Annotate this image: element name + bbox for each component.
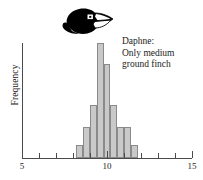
x-axis-major-tick <box>107 151 108 158</box>
x-axis-minor-tick <box>73 153 74 158</box>
x-axis-minor-tick <box>158 153 159 158</box>
histogram-bar <box>83 127 90 158</box>
x-axis-minor-tick <box>175 153 176 158</box>
x-axis-minor-tick <box>141 153 142 158</box>
x-axis-minor-tick <box>124 153 125 158</box>
x-axis-minor-tick <box>90 153 91 158</box>
histogram-bar <box>117 127 124 158</box>
histogram-bar <box>104 64 111 158</box>
histogram-bar <box>110 105 117 158</box>
histogram-bar <box>131 145 138 158</box>
x-axis-tick-label: 5 <box>20 161 25 171</box>
x-axis-tick-label: 10 <box>103 161 112 171</box>
x-axis-minor-tick <box>56 153 57 158</box>
histogram-bar <box>76 145 83 158</box>
x-axis-tick-label: 15 <box>188 161 197 171</box>
histogram-bars <box>0 0 203 180</box>
histogram-bar <box>97 43 104 158</box>
x-axis-minor-tick <box>39 153 40 158</box>
histogram-bar <box>90 105 97 158</box>
histogram-bar <box>124 127 131 158</box>
finch-beak-histogram-figure: Daphne: Only medium ground finch Frequen… <box>0 0 203 180</box>
x-axis-major-tick <box>192 151 193 158</box>
x-axis-major-tick <box>22 151 23 158</box>
